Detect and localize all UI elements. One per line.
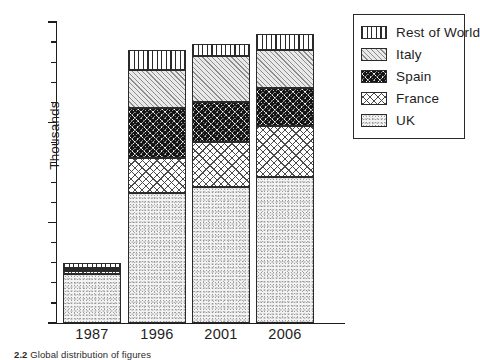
bar-segment-1987-uk bbox=[63, 274, 121, 323]
legend-swatch-light-stipple bbox=[361, 114, 387, 127]
legend-swatch-cross-hatch bbox=[361, 92, 387, 105]
bar-segment-1996-france bbox=[128, 158, 186, 192]
bar-segment-2006-uk bbox=[256, 177, 314, 323]
x-axis-line bbox=[56, 323, 345, 324]
x-tick-label-2006: 2006 bbox=[248, 327, 322, 342]
bar-1987 bbox=[63, 263, 121, 323]
legend-item-rest-of-world: Rest of World bbox=[361, 22, 458, 42]
bar-1996 bbox=[128, 50, 186, 323]
bar-segment-2006-italy bbox=[256, 50, 314, 88]
y-tick-minor bbox=[51, 302, 56, 303]
bar-segment-1987-spain bbox=[63, 269, 121, 271]
bar-segment-1996-italy bbox=[128, 70, 186, 108]
legend-swatch-diagonal-hatch bbox=[361, 48, 387, 61]
y-tick-minor bbox=[51, 262, 56, 263]
bar-2006 bbox=[256, 34, 314, 323]
y-tick-minor bbox=[51, 142, 56, 143]
bar-segment-2006-rest-of-world bbox=[256, 34, 314, 50]
bar-segment-2006-france bbox=[256, 126, 314, 176]
bar-segment-2001-uk bbox=[192, 187, 250, 323]
y-tick-minor bbox=[51, 242, 56, 243]
y-tick-minor bbox=[51, 162, 56, 163]
y-tick-major bbox=[48, 122, 56, 123]
bar-segment-1987-rest-of-world bbox=[63, 263, 121, 268]
y-tick-minor bbox=[51, 202, 56, 203]
legend-label: Spain bbox=[396, 69, 432, 84]
bar-segment-1996-rest-of-world bbox=[128, 50, 186, 70]
legend-item-uk: UK bbox=[361, 110, 458, 130]
y-tick-minor bbox=[51, 82, 56, 83]
bar-segment-2001-italy bbox=[192, 56, 250, 102]
y-tick-major bbox=[48, 21, 56, 22]
y-tick-minor bbox=[51, 41, 56, 42]
legend-label: France bbox=[396, 91, 439, 106]
y-tick-minor bbox=[51, 282, 56, 283]
y-tick-minor bbox=[51, 102, 56, 103]
legend-items: Rest of WorldItalySpainFranceUK bbox=[361, 22, 458, 130]
bar-segment-2001-spain bbox=[192, 102, 250, 142]
legend-label: Italy bbox=[396, 47, 422, 62]
bar-segment-2001-rest-of-world bbox=[192, 44, 250, 56]
legend-label: UK bbox=[396, 113, 415, 128]
figure-caption: 2.2 Global distribution of figures bbox=[14, 349, 151, 360]
y-tick-minor bbox=[51, 62, 56, 63]
legend-item-italy: Italy bbox=[361, 44, 458, 64]
legend-item-spain: Spain bbox=[361, 66, 458, 86]
bar-segment-1996-spain bbox=[128, 108, 186, 158]
bar-segment-2001-france bbox=[192, 142, 250, 186]
chart-legend: Rest of WorldItalySpainFranceUK bbox=[353, 14, 465, 139]
y-tick-major bbox=[48, 222, 56, 223]
legend-item-france: France bbox=[361, 88, 458, 108]
bar-segment-2006-spain bbox=[256, 88, 314, 126]
legend-swatch-dense-speckle bbox=[361, 70, 387, 83]
y-tick-major bbox=[48, 322, 56, 323]
legend-label: Rest of World bbox=[396, 25, 480, 40]
caption-text: Global distribution of figures bbox=[30, 349, 151, 360]
y-tick-minor bbox=[51, 182, 56, 183]
caption-number: 2.2 bbox=[14, 349, 28, 360]
legend-swatch-vertical-stripes bbox=[361, 26, 387, 39]
x-tick-label-2001: 2001 bbox=[184, 327, 258, 342]
x-tick-label-1996: 1996 bbox=[120, 327, 194, 342]
x-tick-label-1987: 1987 bbox=[55, 327, 129, 342]
bar-2001 bbox=[192, 44, 250, 323]
bar-segment-1987-france bbox=[63, 271, 121, 274]
plot-area bbox=[57, 22, 340, 323]
bar-segment-1996-uk bbox=[128, 193, 186, 323]
